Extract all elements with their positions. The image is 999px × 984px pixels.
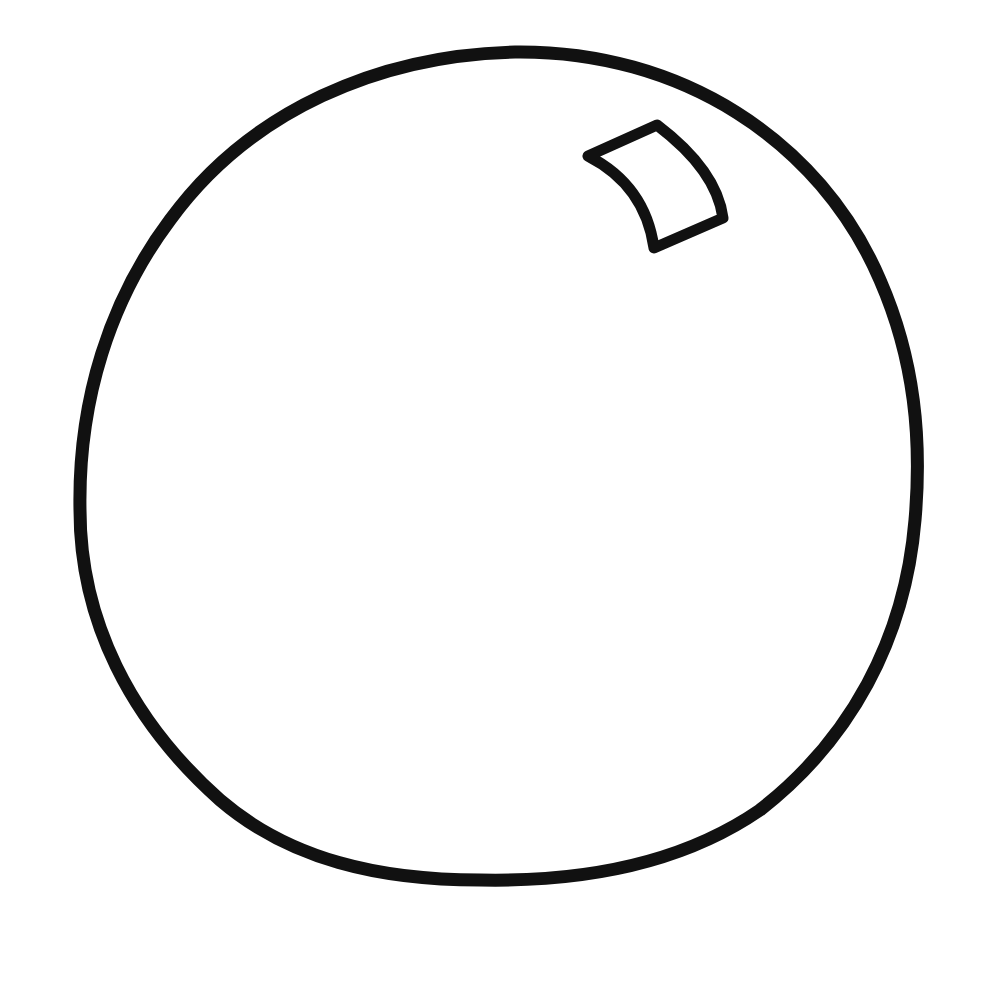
ball-outline [80, 52, 918, 880]
highlight [588, 125, 723, 248]
ball-drawing [0, 0, 999, 984]
